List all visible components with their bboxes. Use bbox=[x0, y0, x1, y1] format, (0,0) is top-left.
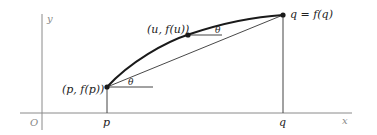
point-p-label: (p, f(p)) bbox=[62, 83, 104, 96]
theta-label-u: θ bbox=[215, 25, 221, 35]
mean-value-diagram: y O x p q (p, f(p)) (u, f(u)) q = f(q) θ… bbox=[0, 0, 377, 135]
point-q-label: q = f(q) bbox=[290, 8, 333, 21]
point-p bbox=[104, 84, 109, 89]
origin-label: O bbox=[30, 117, 38, 128]
q-tick-label: q bbox=[279, 116, 286, 129]
p-tick-label: p bbox=[103, 116, 110, 129]
point-q bbox=[280, 12, 285, 17]
y-axis-label: y bbox=[46, 13, 53, 24]
x-axis-label: x bbox=[342, 115, 348, 126]
theta-label-p: θ bbox=[128, 77, 134, 87]
point-u-label: (u, f(u)) bbox=[147, 23, 189, 36]
